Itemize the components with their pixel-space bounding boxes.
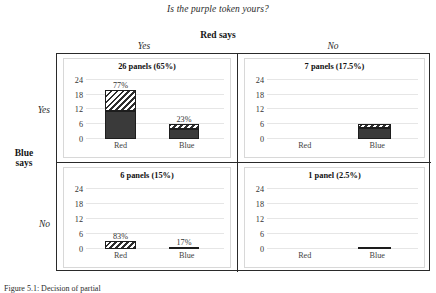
y-axis-tick-label: 18	[75, 200, 83, 209]
y-axis-tick-label: 6	[79, 120, 83, 129]
y-axis-tick-label: 24	[256, 75, 264, 84]
panel-grid: 26 panels (65%) 06121824RedBlue77%23% 7 …	[56, 53, 430, 271]
y-axis-tick-label: 24	[75, 75, 83, 84]
gridline	[86, 218, 224, 219]
gridline	[267, 79, 418, 80]
panel-plot-area: 06121824RedBlue	[267, 75, 418, 139]
row-group-label: Blue says	[4, 148, 44, 168]
bar-blue	[358, 124, 391, 140]
bar-segment-hatch	[358, 124, 391, 128]
bar-value-label: 83%	[93, 232, 148, 241]
x-axis-tick-label: Blue	[161, 249, 213, 260]
bar-segment-solid	[105, 111, 135, 139]
y-axis-tick-label: 12	[256, 105, 264, 114]
y-axis-tick-label: 0	[260, 245, 264, 254]
panel-inner: 1 panel (2.5%) 06121824RedBlue	[244, 167, 425, 268]
x-axis-tick-label: Red	[276, 249, 333, 260]
panel-yes-yes: 26 panels (65%) 06121824RedBlue77%23%	[57, 54, 237, 162]
bar-segment-hatch	[169, 247, 199, 249]
bar-blue: 23%	[169, 124, 199, 139]
row-group-label-line1: Blue	[4, 148, 44, 158]
bar-segment-solid	[169, 129, 199, 139]
figure-caption: Figure 5.1: Decision of partial	[4, 284, 304, 293]
x-axis-tick-label: Blue	[161, 139, 213, 150]
column-group-label: Red says	[0, 30, 436, 40]
gridline	[86, 79, 224, 80]
bar-segment-hatch	[105, 90, 135, 111]
gridline	[86, 188, 224, 189]
y-axis-tick-label: 12	[75, 215, 83, 224]
bar-value-label: 77%	[93, 81, 148, 90]
y-axis-tick-label: 24	[256, 185, 264, 194]
panel-inner: 26 panels (65%) 06121824RedBlue77%23%	[63, 58, 231, 158]
panel-title: 26 panels (65%)	[64, 62, 230, 71]
y-axis-tick-label: 18	[256, 200, 264, 209]
gridline	[267, 123, 418, 124]
x-axis-tick-label: Blue	[349, 249, 406, 260]
panel-plot-area: 06121824RedBlue	[267, 184, 418, 249]
column-label-yes: Yes	[56, 41, 232, 51]
y-axis-tick-label: 12	[75, 105, 83, 114]
gridline	[267, 218, 418, 219]
bar-blue	[358, 247, 391, 249]
panel-plot-area: 06121824RedBlue77%23%	[86, 75, 224, 139]
x-axis-tick-label: Red	[94, 249, 146, 260]
bar-blue: 17%	[169, 247, 199, 249]
bar-segment-hatch	[105, 241, 135, 250]
gridline	[267, 188, 418, 189]
gridline	[267, 203, 418, 204]
bar-red: 83%	[105, 241, 135, 250]
panel-title: 6 panels (15%)	[64, 171, 230, 180]
bar-value-label: 17%	[157, 238, 212, 247]
x-axis-tick-label: Red	[94, 139, 146, 150]
row-group-label-line2: says	[4, 158, 44, 168]
bar-segment-hatch	[169, 124, 199, 129]
panel-no-no: 1 panel (2.5%) 06121824RedBlue	[238, 163, 431, 272]
gridline	[267, 108, 418, 109]
panel-plot-area: 06121824RedBlue83%17%	[86, 184, 224, 249]
y-axis-tick-label: 18	[75, 90, 83, 99]
y-axis-tick-label: 6	[260, 230, 264, 239]
figure-root: Is the purple token yours? Red says Yes …	[0, 0, 436, 293]
y-axis-tick-label: 12	[256, 215, 264, 224]
panel-inner: 7 panels (17.5%) 06121824RedBlue	[244, 58, 425, 158]
column-label-no: No	[236, 41, 430, 51]
bar-segment-solid	[358, 128, 391, 139]
y-axis-tick-label: 24	[75, 185, 83, 194]
panel-title: 1 panel (2.5%)	[245, 171, 424, 180]
y-axis-tick-label: 6	[260, 120, 264, 129]
figure-suptitle: Is the purple token yours?	[0, 4, 436, 14]
panel-inner: 6 panels (15%) 06121824RedBlue83%17%	[63, 167, 231, 268]
panel-title: 7 panels (17.5%)	[245, 62, 424, 71]
y-axis-tick-label: 6	[79, 230, 83, 239]
row-label-yes: Yes	[4, 105, 50, 115]
y-axis-tick-label: 0	[79, 135, 83, 144]
bar-segment-hatch	[358, 247, 391, 249]
row-label-no: No	[4, 219, 50, 229]
gridline	[267, 94, 418, 95]
panel-no-yes: 6 panels (15%) 06121824RedBlue83%17%	[57, 163, 237, 272]
y-axis-tick-label: 18	[256, 90, 264, 99]
gridline	[86, 203, 224, 204]
y-axis-tick-label: 0	[79, 245, 83, 254]
gridline	[267, 233, 418, 234]
panel-yes-no: 7 panels (17.5%) 06121824RedBlue	[238, 54, 431, 162]
x-axis-tick-label: Red	[276, 139, 333, 150]
y-axis-tick-label: 0	[260, 135, 264, 144]
x-axis-tick-label: Blue	[349, 139, 406, 150]
bar-value-label: 23%	[157, 115, 212, 124]
bar-red: 77%	[105, 90, 135, 139]
